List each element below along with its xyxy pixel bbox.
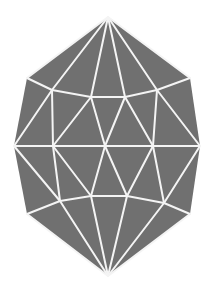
facet-edge: [52, 90, 53, 146]
gemstone-figure: [0, 0, 213, 291]
gemstone-diagram: [0, 0, 213, 291]
